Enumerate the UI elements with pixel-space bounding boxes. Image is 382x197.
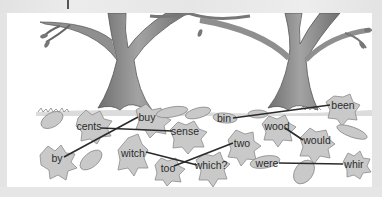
word-were[interactable]: were bbox=[256, 158, 279, 169]
left-tree bbox=[40, 13, 250, 110]
word-cents[interactable]: cents bbox=[76, 121, 101, 132]
word-would[interactable]: would bbox=[303, 135, 330, 146]
word-which[interactable]: which? bbox=[195, 160, 228, 171]
word-whir[interactable]: whir bbox=[344, 159, 363, 170]
word-buy[interactable]: buy bbox=[139, 112, 156, 123]
word-witch[interactable]: witch bbox=[121, 148, 145, 159]
word-by[interactable]: by bbox=[51, 153, 62, 164]
word-too[interactable]: too bbox=[161, 163, 176, 174]
tree-scene bbox=[0, 0, 382, 197]
word-two[interactable]: two bbox=[234, 138, 250, 149]
word-wood[interactable]: wood bbox=[264, 121, 289, 132]
line-were-whir bbox=[279, 163, 343, 164]
word-been[interactable]: been bbox=[331, 100, 354, 111]
word-bin[interactable]: bin bbox=[217, 113, 231, 124]
word-sense[interactable]: sense bbox=[171, 126, 199, 137]
